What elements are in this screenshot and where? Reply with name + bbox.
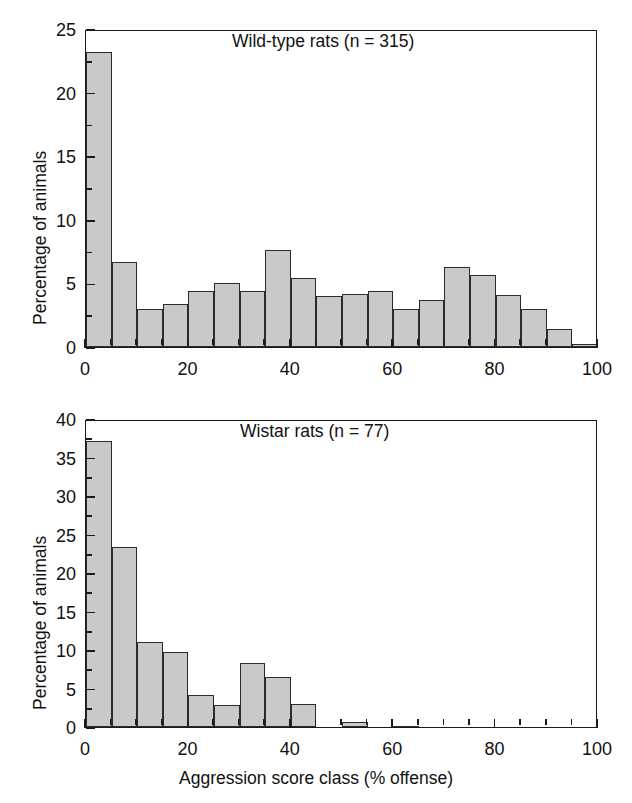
x-axis-tick-label: 80	[467, 360, 523, 378]
y-axis-minor-tick	[86, 125, 92, 127]
y-axis-minor-tick	[86, 61, 92, 63]
x-axis-minor-tick	[135, 719, 137, 725]
x-axis-minor-tick	[315, 719, 317, 725]
histogram-bar	[137, 309, 163, 347]
plot-area-wild-type	[85, 30, 597, 348]
y-axis-minor-tick	[86, 592, 92, 594]
x-axis-tick-label: 20	[159, 360, 215, 378]
x-axis-minor-tick	[238, 339, 240, 345]
y-axis-tick-label: 0	[30, 339, 76, 357]
histogram-bar	[240, 291, 266, 347]
y-axis-tick-label: 0	[30, 719, 76, 737]
histogram-bar	[265, 677, 291, 727]
y-axis-major-tick	[86, 689, 95, 691]
histogram-bar	[444, 267, 470, 347]
histogram-bar	[265, 250, 291, 347]
panel-title-wild-type: Wild-type rats (n = 315)	[232, 31, 414, 52]
y-axis-minor-tick	[86, 315, 92, 317]
histogram-bar	[240, 663, 266, 727]
x-axis-tick-label: 100	[569, 360, 625, 378]
x-axis-major-tick	[494, 339, 496, 348]
y-axis-tick-label: 25	[30, 21, 76, 39]
y-axis-minor-tick	[86, 554, 92, 556]
y-axis-major-tick	[86, 496, 95, 498]
x-axis-major-tick	[84, 719, 86, 728]
y-axis-major-tick	[86, 156, 95, 158]
y-axis-minor-tick	[86, 708, 92, 710]
y-axis-minor-tick	[86, 515, 92, 517]
y-axis-major-tick	[86, 29, 95, 31]
y-axis-major-tick	[86, 612, 95, 614]
x-axis-major-tick	[289, 339, 291, 348]
x-axis-minor-tick	[212, 339, 214, 345]
x-axis-major-tick	[391, 339, 393, 348]
y-axis-minor-tick	[86, 631, 92, 633]
panel-title-wistar: Wistar rats (n = 77)	[240, 421, 389, 442]
bar-series-wistar	[86, 421, 596, 727]
x-axis-minor-tick	[545, 719, 547, 725]
x-axis-minor-tick	[366, 719, 368, 725]
histogram-bar	[188, 695, 214, 727]
x-axis-minor-tick	[468, 339, 470, 345]
y-axis-minor-tick	[86, 188, 92, 190]
x-axis-major-tick	[187, 339, 189, 348]
y-axis-minor-tick	[86, 252, 92, 254]
y-axis-major-tick	[86, 727, 95, 729]
y-axis-minor-tick	[86, 477, 92, 479]
y-axis-major-tick	[86, 93, 95, 95]
x-axis-minor-tick	[545, 339, 547, 345]
x-axis-minor-tick	[417, 339, 419, 345]
x-axis-tick-label: 0	[57, 740, 113, 758]
x-axis-tick-label: 60	[364, 740, 420, 758]
histogram-bar	[316, 296, 342, 347]
y-axis-title-wild-type: Percentage of animals	[30, 151, 51, 325]
x-axis-minor-tick	[443, 719, 445, 725]
x-axis-tick-label: 40	[262, 740, 318, 758]
histogram-bar	[368, 291, 394, 347]
histogram-bar	[470, 275, 496, 348]
x-axis-minor-tick	[340, 339, 342, 345]
x-axis-major-tick	[289, 719, 291, 728]
x-axis-tick-label: 100	[569, 740, 625, 758]
x-axis-major-tick	[596, 719, 598, 728]
y-axis-minor-tick	[86, 438, 92, 440]
histogram-bar	[112, 547, 138, 727]
x-axis-minor-tick	[263, 719, 265, 725]
x-axis-minor-tick	[315, 339, 317, 345]
x-axis-minor-tick	[468, 719, 470, 725]
y-axis-major-tick	[86, 535, 95, 537]
x-axis-minor-tick	[519, 719, 521, 725]
x-axis-major-tick	[494, 719, 496, 728]
chart-panel-wild-type: 0510152025020406080100 Wild-type rats (n…	[0, 0, 632, 400]
x-axis-minor-tick	[212, 719, 214, 725]
y-axis-tick-label: 20	[30, 85, 76, 103]
y-axis-title-wistar: Percentage of animals	[30, 536, 51, 710]
x-axis-minor-tick	[519, 339, 521, 345]
x-axis-minor-tick	[443, 339, 445, 345]
histogram-bar	[214, 283, 240, 347]
x-axis-tick-label: 80	[467, 740, 523, 758]
y-axis-tick-label: 40	[30, 411, 76, 429]
x-axis-minor-tick	[340, 719, 342, 725]
y-axis-major-tick	[86, 347, 95, 349]
x-axis-tick-label: 40	[262, 360, 318, 378]
chart-panel-wistar: 0510152025303540020406080100 Wistar rats…	[0, 385, 632, 803]
x-axis-minor-tick	[135, 339, 137, 345]
x-axis-minor-tick	[366, 339, 368, 345]
y-axis-tick-label: 30	[30, 488, 76, 506]
x-axis-major-tick	[596, 339, 598, 348]
x-axis-major-tick	[187, 719, 189, 728]
x-axis-major-tick	[391, 719, 393, 728]
y-axis-minor-tick	[86, 669, 92, 671]
x-axis-minor-tick	[263, 339, 265, 345]
histogram-bar	[86, 52, 112, 347]
y-axis-tick-label: 35	[30, 450, 76, 468]
y-axis-major-tick	[86, 650, 95, 652]
x-axis-major-tick	[84, 339, 86, 348]
x-axis-minor-tick	[110, 339, 112, 345]
histogram-bar	[547, 329, 573, 347]
x-axis-minor-tick	[238, 719, 240, 725]
plot-area-wistar	[85, 420, 597, 728]
histogram-bar	[112, 262, 138, 347]
histogram-bar	[214, 705, 240, 727]
